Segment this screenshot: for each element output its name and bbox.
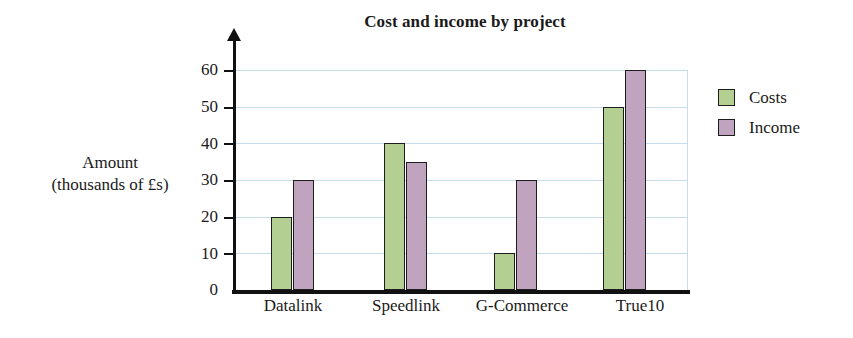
- x-tick-label-speedlink: Speedlink: [346, 296, 466, 316]
- plot-right-border: [687, 70, 688, 290]
- x-tick-label-gcommerce: G-Commerce: [452, 296, 592, 316]
- y-tick-label-60: 60: [176, 61, 218, 78]
- y-tick-60: [224, 70, 235, 72]
- chart-legend: Costs Income: [718, 82, 800, 142]
- y-tick-30: [224, 180, 235, 182]
- bar-income-gcommerce: [516, 180, 537, 290]
- y-tick-label-20: 20: [176, 208, 218, 225]
- legend-label-costs: Costs: [749, 89, 787, 106]
- y-tick-40: [224, 143, 235, 145]
- bar-income-true10: [625, 70, 646, 290]
- y-tick-20: [224, 217, 235, 219]
- bar-chart-figure: Cost and income by project Amount (thous…: [0, 0, 853, 338]
- bar-costs-datalink: [271, 217, 292, 290]
- y-tick-label-10: 10: [176, 245, 218, 262]
- x-tick-label-datalink: Datalink: [233, 296, 353, 316]
- x-axis-line: [232, 290, 690, 294]
- legend-swatch-income-icon: [718, 119, 735, 136]
- legend-label-income: Income: [749, 119, 800, 136]
- y-tick-label-0: 0: [176, 281, 218, 298]
- bar-costs-speedlink: [384, 143, 405, 290]
- bar-costs-gcommerce: [494, 253, 515, 290]
- gridline-60: [236, 70, 688, 71]
- y-tick-label-40: 40: [176, 135, 218, 152]
- y-tick-label-50: 50: [176, 98, 218, 115]
- legend-item-costs: Costs: [718, 82, 800, 112]
- y-tick-50: [224, 107, 235, 109]
- bar-income-speedlink: [406, 162, 427, 290]
- x-tick-label-true10: True10: [580, 296, 700, 316]
- legend-swatch-costs-icon: [718, 89, 735, 106]
- plot-area: [236, 70, 688, 290]
- chart-title: Cost and income by project: [250, 12, 680, 32]
- y-tick-10: [224, 253, 235, 255]
- y-tick-label-30: 30: [176, 171, 218, 188]
- bar-costs-true10: [603, 107, 624, 290]
- bar-income-datalink: [293, 180, 314, 290]
- y-axis-arrow-icon: [227, 28, 241, 41]
- legend-item-income: Income: [718, 112, 800, 142]
